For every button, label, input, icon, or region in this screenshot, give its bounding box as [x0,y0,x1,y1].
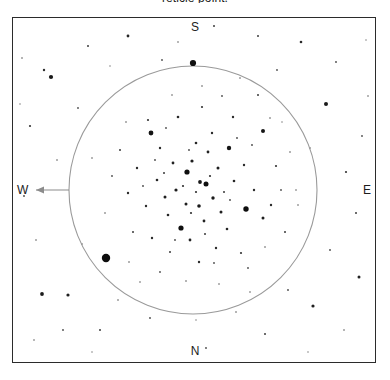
cardinal-label-north: N [0,345,390,357]
cardinal-label-east: E [363,184,371,196]
chart-frame [12,17,376,363]
star-chart-root: reticle point. S N W E [0,0,390,380]
chart-caption: reticle point. [0,0,390,3]
cardinal-label-west: W [17,184,28,196]
cardinal-label-south: S [0,21,390,33]
